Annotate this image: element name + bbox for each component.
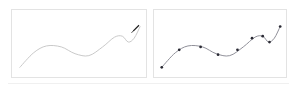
control-point[interactable] (199, 46, 202, 49)
smooth-curve-canvas[interactable] (12, 10, 146, 77)
control-point-curve-canvas[interactable] (154, 10, 286, 77)
control-point[interactable] (160, 66, 163, 69)
curve-path[interactable] (162, 27, 280, 68)
control-point[interactable] (279, 25, 282, 28)
control-point[interactable] (268, 41, 271, 44)
control-point[interactable] (236, 48, 239, 51)
control-point[interactable] (251, 37, 254, 40)
control-point[interactable] (217, 53, 220, 56)
smooth-curve-panel[interactable] (11, 9, 147, 78)
control-point-group[interactable] (160, 25, 281, 69)
control-point[interactable] (178, 48, 181, 51)
control-point[interactable] (261, 35, 264, 38)
curve-path[interactable] (20, 27, 140, 68)
screenshot-root (0, 0, 297, 89)
control-point-curve-panel[interactable] (153, 9, 287, 78)
baseline-rule (8, 83, 289, 84)
